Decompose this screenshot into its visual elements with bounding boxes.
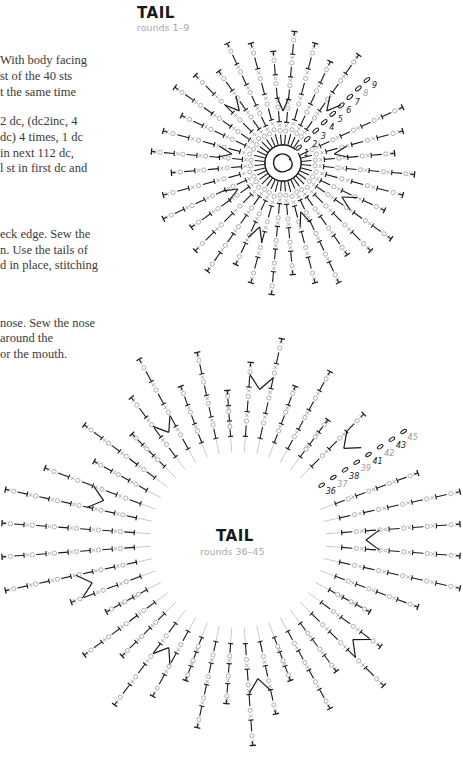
round-number: 2 — [312, 140, 317, 149]
round-number: 9 — [372, 81, 377, 90]
chart-top-subtitle: rounds 1–9 — [137, 22, 189, 33]
round-number: 36 — [326, 487, 336, 496]
chart-top-title: TAIL — [137, 4, 175, 22]
round-number: 1 — [304, 149, 309, 158]
chart-bottom-subtitle: rounds 36–45 — [200, 546, 264, 557]
round-number: 37 — [337, 480, 348, 489]
chart-bottom-title: TAIL — [216, 527, 254, 545]
round-number: 5 — [338, 115, 343, 124]
round-number: 45 — [408, 433, 418, 442]
round-number: 8 — [363, 89, 368, 98]
round-number: 6 — [346, 106, 351, 115]
round-number: 41 — [372, 457, 382, 466]
round-number: 38 — [349, 472, 359, 481]
round-number: 3 — [321, 132, 326, 141]
chart-top-rounds-1-9: 123456789 — [151, 31, 415, 295]
round-number: 4 — [329, 123, 334, 132]
magic-ring-icon — [273, 154, 292, 172]
round-number: 42 — [384, 449, 394, 458]
round-number: 7 — [355, 98, 361, 107]
round-number: 43 — [396, 441, 406, 450]
round-number: 39 — [361, 464, 371, 473]
crochet-chart-diagrams: 1234567893637383941424345 — [0, 0, 463, 769]
